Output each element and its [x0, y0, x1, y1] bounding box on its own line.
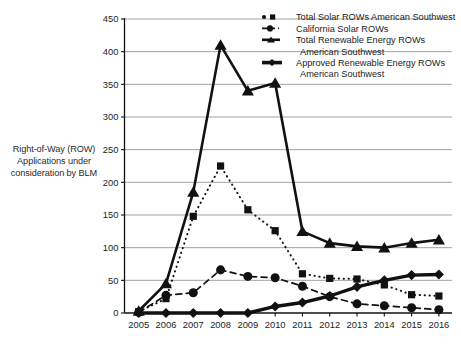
y-tick-label: 350 [103, 79, 119, 90]
circle-data-marker [243, 272, 252, 281]
series-line [139, 166, 439, 312]
circle-data-marker [298, 282, 307, 291]
diamond-data-marker [352, 282, 362, 292]
square-data-marker [435, 292, 442, 299]
square-data-marker [408, 291, 415, 298]
x-tick-label: 2010 [265, 319, 286, 330]
legend-item-label: Total Solar ROWs American Southwest [296, 12, 456, 22]
x-tick-label: 2013 [347, 319, 368, 330]
diamond-data-marker [297, 298, 307, 308]
square-data-marker [299, 270, 306, 277]
x-tick-label: 2012 [319, 319, 340, 330]
diamond-data-marker [434, 269, 444, 279]
y-tick-label: 300 [103, 111, 119, 122]
diamond-data-marker [407, 270, 417, 280]
y-tick-label: 50 [108, 275, 118, 286]
triangle-data-marker [187, 186, 199, 197]
circle-data-marker [380, 301, 389, 310]
legend-swatch [262, 25, 279, 31]
square-data-marker [272, 227, 279, 234]
x-tick-label: 2009 [237, 319, 258, 330]
triangle-data-marker [269, 77, 281, 88]
series-group [133, 39, 445, 315]
circle-data-marker [161, 291, 170, 300]
y-tick-label: 400 [103, 46, 119, 57]
y-tick-label: 0 [113, 307, 118, 318]
legend-swatch [262, 59, 282, 66]
chart-legend: Total Solar ROWs American SouthwestCalif… [262, 12, 456, 79]
square-data-marker [217, 162, 224, 169]
square-data-marker [190, 213, 197, 220]
circle-data-marker [353, 299, 362, 308]
x-tick-label: 2005 [128, 319, 149, 330]
circle-data-marker [216, 265, 225, 274]
triangle-data-marker [215, 39, 227, 50]
chart-container: Right-of-Way (ROW) Applications under co… [0, 0, 461, 347]
legend-item-label-line2: American Southwest [300, 47, 385, 57]
circle-data-marker [271, 273, 280, 282]
x-tick-label: 2015 [401, 319, 422, 330]
y-axis-ticks-group: 050100150200250300350400450 [103, 13, 125, 318]
y-axis-title-line-3: consideration by BLM [2, 167, 106, 179]
x-tick-label: 2006 [156, 319, 177, 330]
legend-item-label: Approved Renewable Energy ROWs [296, 58, 446, 68]
data-series-group [133, 39, 445, 318]
y-axis-title-line-2: Applications under [2, 155, 106, 167]
series-line [139, 45, 439, 311]
x-tick-label: 2008 [210, 319, 231, 330]
x-tick-label: 2016 [428, 319, 449, 330]
y-tick-label: 100 [103, 242, 119, 253]
circle-data-marker [189, 288, 198, 297]
series-group [134, 265, 443, 316]
square-data-marker [353, 275, 360, 282]
diamond-data-marker [325, 291, 335, 301]
legend-swatch [262, 36, 280, 42]
y-axis-title: Right-of-Way (ROW) Applications under co… [2, 143, 106, 180]
circle-data-marker [407, 303, 416, 312]
x-tick-label: 2014 [374, 319, 395, 330]
legend-item-label: Total Renewable Energy ROWs [296, 35, 426, 45]
legend-item-label-line2: American Southwest [300, 69, 385, 79]
x-axis-ticks-group: 2005200620072008200920102011201220132014… [128, 313, 449, 330]
square-data-marker [326, 275, 333, 282]
triangle-data-marker [160, 278, 172, 289]
triangle-data-marker [296, 226, 308, 237]
y-axis-title-line-1: Right-of-Way (ROW) [2, 143, 106, 155]
series-group [135, 162, 442, 315]
y-tick-label: 450 [103, 13, 119, 24]
y-tick-label: 150 [103, 209, 119, 220]
legend-item-label: California Solar ROWs [296, 24, 389, 34]
x-tick-label: 2011 [292, 319, 312, 330]
square-data-marker [244, 206, 251, 213]
x-tick-label: 2007 [183, 319, 204, 330]
diamond-data-marker [270, 301, 280, 311]
